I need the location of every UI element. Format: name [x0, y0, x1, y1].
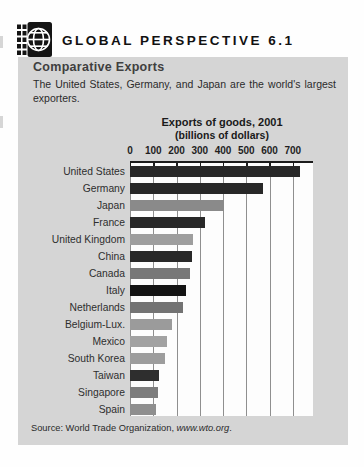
scan-artifact	[0, 36, 3, 48]
bar	[130, 183, 263, 194]
category-label: Spain	[13, 403, 125, 416]
category-label: Germany	[13, 182, 125, 195]
category-label: Mexico	[13, 335, 125, 348]
bar	[130, 166, 300, 177]
bar	[130, 319, 172, 330]
axis-tick-labels: 0100200300400500600700	[18, 145, 348, 157]
axis-tick-mark	[269, 161, 271, 166]
chart-title: Exports of goods, 2001 (billions of doll…	[122, 115, 322, 142]
textbook-page: GLOBAL PERSPECTIVE 6.1 Comparative Expor…	[0, 0, 364, 467]
axis-tick-label: 100	[145, 145, 162, 156]
axis-tick-mark	[223, 161, 225, 166]
source-note: Source: World Trade Organization, www.wt…	[31, 423, 232, 433]
category-label: France	[13, 216, 125, 229]
axis-tick-mark	[130, 161, 132, 166]
axis-tick-label: 700	[284, 145, 301, 156]
x-axis-line	[130, 161, 313, 163]
source-text: Source: World Trade Organization,	[31, 423, 177, 433]
axis-tick-label: 200	[168, 145, 185, 156]
bar	[130, 268, 190, 279]
category-label: Canada	[13, 267, 125, 280]
chart-title-line1: Exports of goods, 2001	[122, 115, 322, 129]
intro-text: The United States, Germany, and Japan ar…	[33, 77, 336, 105]
gridline	[270, 161, 271, 416]
category-label: United Kingdom	[13, 233, 125, 246]
axis-tick-mark	[153, 161, 155, 166]
feature-box-panel: Comparative Exports The United States, G…	[18, 57, 348, 445]
axis-tick-mark	[246, 161, 248, 166]
gridline	[293, 161, 294, 416]
axis-tick-mark	[176, 161, 178, 166]
bar	[130, 336, 167, 347]
axis-tick-label: 300	[191, 145, 208, 156]
category-label: Japan	[13, 199, 125, 212]
plot-area: United StatesGermanyJapanFranceUnited Ki…	[130, 161, 313, 416]
category-label: Belgium-Lux.	[13, 318, 125, 331]
gridline	[246, 161, 247, 416]
bar	[130, 234, 193, 245]
category-label: Netherlands	[13, 301, 125, 314]
category-label: Singapore	[13, 386, 125, 399]
source-period: .	[229, 423, 232, 433]
category-label: Italy	[13, 284, 125, 297]
axis-tick-label: 0	[127, 145, 133, 156]
intro-text-line2: exporters.	[33, 91, 336, 105]
bar	[130, 302, 183, 313]
bar	[130, 387, 158, 398]
axis-tick-label: 400	[215, 145, 232, 156]
bar	[130, 251, 192, 262]
axis-tick-mark	[200, 161, 202, 166]
axis-tick-label: 600	[261, 145, 278, 156]
intro-text-line1: The United States, Germany, and Japan ar…	[33, 77, 336, 91]
category-label: South Korea	[13, 352, 125, 365]
chart-title-line2: (billions of dollars)	[122, 129, 322, 142]
axis-tick-mark	[293, 161, 295, 166]
scan-artifact	[0, 116, 3, 128]
bar	[130, 404, 156, 415]
globe-icon	[17, 22, 52, 57]
bar	[130, 200, 224, 211]
source-url: www.wto.org	[177, 423, 230, 433]
section-heading: Comparative Exports	[33, 60, 164, 74]
bar	[130, 217, 205, 228]
category-label: China	[13, 250, 125, 263]
category-label: United States	[13, 165, 125, 178]
bar	[130, 353, 165, 364]
bar	[130, 370, 159, 381]
feature-box-title: GLOBAL PERSPECTIVE 6.1	[62, 33, 295, 48]
bar	[130, 285, 186, 296]
category-label: Taiwan	[13, 369, 125, 382]
axis-tick-label: 500	[238, 145, 255, 156]
